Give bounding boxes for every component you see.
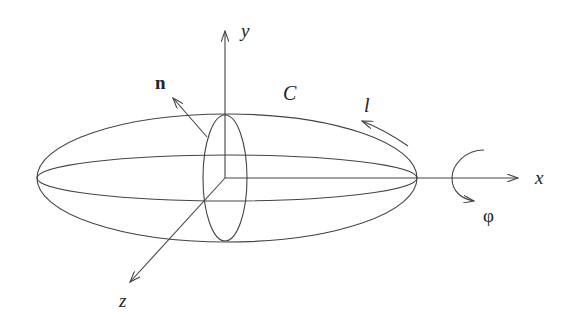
angle-label: φ xyxy=(483,205,494,226)
normal-vector-arrow xyxy=(173,98,207,137)
z-axis xyxy=(130,178,225,282)
z-axis-label: z xyxy=(118,290,127,311)
normal-label: n xyxy=(155,72,166,93)
ellipsoid-diagram: y x z n C l φ xyxy=(0,0,572,324)
arc-length-label: l xyxy=(364,94,370,116)
y-axis-label: y xyxy=(239,20,250,41)
x-axis-label: x xyxy=(534,167,544,188)
rotation-arrow-icon xyxy=(452,150,484,201)
contour-label: C xyxy=(283,82,297,104)
